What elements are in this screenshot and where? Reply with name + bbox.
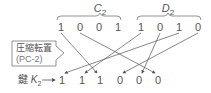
permutation-arrow <box>142 33 160 73</box>
input-bit-1: 0 <box>77 22 83 33</box>
input-bit-0: 1 <box>58 22 64 33</box>
input-bit-6: 1 <box>176 22 182 33</box>
input-bit-3: 1 <box>115 22 121 33</box>
permutation-arrow <box>123 33 198 73</box>
callout-title: 圧縮転置 <box>16 43 54 54</box>
input-bit-7: 0 <box>195 22 201 33</box>
input-bit-2: 0 <box>96 22 102 33</box>
group-label-1: D2 <box>162 3 174 17</box>
pc2-callout: 圧縮転置 (PC-2) <box>13 42 57 66</box>
output-bit-2: 1 <box>97 75 103 86</box>
output-bit-4: 0 <box>136 75 142 86</box>
brace-c2 <box>57 13 121 20</box>
callout-subtitle: (PC-2) <box>16 54 54 65</box>
permutation-arrow <box>65 33 179 73</box>
input-bit-4: 1 <box>138 22 144 33</box>
output-bit-1: 1 <box>79 75 85 86</box>
permutation-arrow <box>85 33 141 73</box>
key-label: 鍵 K2 <box>18 74 41 90</box>
group-label-0: C2 <box>94 3 106 17</box>
output-bit-0: 1 <box>59 75 65 86</box>
output-bit-3: 0 <box>117 75 123 86</box>
input-bit-5: 0 <box>157 22 163 33</box>
output-bit-5: 0 <box>155 75 161 86</box>
